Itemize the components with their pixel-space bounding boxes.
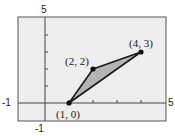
- label-point-2-2: (2, 2): [65, 55, 89, 68]
- label-point-4-3: (4, 3): [129, 37, 153, 50]
- label-point-1-0: (1, 0): [56, 108, 80, 121]
- graph: (1, 0) (2, 2) (4, 3) 5 -1 5 -1: [0, 0, 175, 136]
- label-y-max: 5: [41, 4, 47, 15]
- label-x-max: 5: [168, 97, 174, 108]
- point-4-3: [138, 49, 143, 54]
- point-1-0: [66, 100, 71, 105]
- label-y-min: -1: [35, 123, 44, 134]
- label-x-min: -1: [2, 97, 11, 108]
- point-2-2: [90, 66, 95, 71]
